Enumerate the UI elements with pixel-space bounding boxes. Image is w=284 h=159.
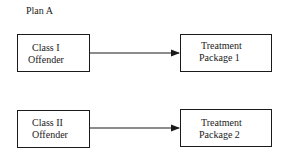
box-label-line2: Package 2 xyxy=(199,129,240,141)
box-label-line1: Class I xyxy=(32,42,60,54)
box-label-line2: Offender xyxy=(32,129,68,141)
class-1-offender-box: Class I Offender xyxy=(17,34,90,72)
box-label-line2: Offender xyxy=(28,54,64,66)
treatment-package-2-box: Treatment Package 2 xyxy=(180,109,272,147)
box-label-line1: Class II xyxy=(32,117,63,129)
box-label-line1: Treatment xyxy=(201,117,242,129)
box-label-line2: Package 1 xyxy=(199,52,240,64)
treatment-package-1-box: Treatment Package 1 xyxy=(180,34,272,72)
box-label-line1: Treatment xyxy=(201,40,242,52)
class-2-offender-box: Class II Offender xyxy=(17,110,90,148)
